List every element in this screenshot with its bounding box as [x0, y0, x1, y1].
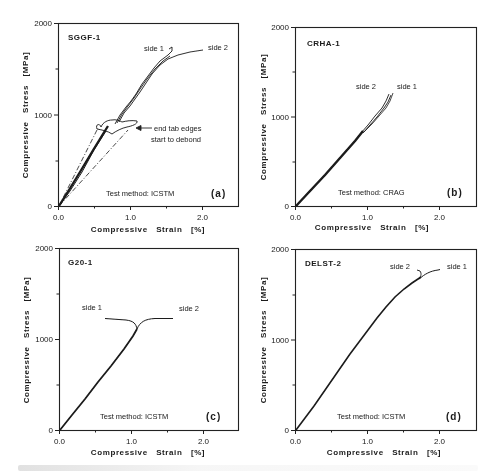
x-tick-1: 1.0 [126, 437, 138, 446]
stress-strain-curves [296, 270, 440, 431]
x-tick-0: 0.0 [53, 213, 65, 222]
y-tick-0: 0 [48, 202, 53, 211]
panel-c: 2000 1000 0 0.0 1.0 2.0 Compressive Stra… [22, 244, 239, 457]
y-axis-title: Compressive Stress [MPa] [22, 277, 31, 404]
plot-frame [296, 28, 477, 207]
panel-tag: (b) [447, 187, 463, 198]
y-tick-1000: 1000 [271, 336, 289, 345]
y-axis-title: Compressive Stress [MPa] [21, 52, 30, 179]
x-tick-2: 2.0 [434, 437, 446, 446]
side-2-label: side 2 [179, 304, 199, 313]
x-tick-1: 1.0 [362, 213, 374, 222]
side-2-label: side 2 [356, 82, 376, 91]
test-method-label: Test method: ICSTM [106, 189, 174, 198]
annotation-line-1: end tab edges [154, 124, 202, 133]
panel-a: 2000 1000 0 0.0 1.0 2.0 Compressive Stra… [21, 19, 239, 234]
panel-tag: (c) [206, 411, 221, 422]
panel-tag: (d) [446, 411, 462, 422]
y-tick-0: 0 [285, 202, 290, 211]
x-tick-2: 2.0 [198, 437, 210, 446]
caption-remnant [18, 465, 478, 471]
y-tick-1000: 1000 [271, 113, 289, 122]
x-tick-2: 2.0 [434, 213, 446, 222]
panel-title: DELST-2 [305, 259, 341, 268]
y-tick-1000: 1000 [34, 111, 52, 120]
plot-frame [60, 249, 239, 431]
y-tick-0: 0 [49, 426, 54, 435]
test-method-label: Test method: ICSTM [337, 412, 405, 421]
panel-b: 2000 1000 0 0.0 1.0 2.0 Compressive Stra… [259, 23, 477, 232]
y-axis-title: Compressive Stress [MPa] [259, 54, 268, 181]
figure: 2000 1000 0 0.0 1.0 2.0 Compressive Stra… [0, 0, 495, 474]
y-tick-2000: 2000 [35, 244, 53, 253]
side-1-label: side 1 [447, 262, 467, 271]
y-tick-2000: 2000 [271, 23, 289, 32]
y-tick-1000: 1000 [35, 335, 53, 344]
side-1-label: side 1 [397, 82, 417, 91]
y-tick-2000: 2000 [271, 245, 289, 254]
x-tick-1: 1.0 [125, 213, 137, 222]
ticks [291, 28, 440, 211]
x-tick-0: 0.0 [54, 437, 66, 446]
x-axis-title: Compressive Strain [%] [91, 448, 205, 457]
side-2-label: side 2 [390, 262, 410, 271]
side-2-label: side 2 [208, 43, 228, 52]
x-tick-0: 0.0 [290, 213, 302, 222]
y-tick-2000: 2000 [34, 19, 52, 28]
annotation-line-2: start to debond [151, 135, 201, 144]
x-axis-title: Compressive Strain [%] [315, 223, 429, 232]
y-ticks [54, 24, 203, 211]
x-tick-1: 1.0 [362, 437, 374, 446]
panel-tag: (a) [211, 188, 226, 199]
panel-title: G20-1 [68, 258, 93, 267]
x-tick-2: 2.0 [197, 213, 209, 222]
y-tick-0: 0 [285, 426, 290, 435]
x-axis-title: Compressive Strain [%] [327, 448, 441, 457]
x-tick-0: 0.0 [290, 437, 302, 446]
side-1-label: side 1 [144, 44, 164, 53]
test-method-label: Test method: CRAG [338, 188, 405, 197]
panel-d: 2000 1000 0 0.0 1.0 2.0 Compressive Stra… [259, 245, 477, 457]
test-method-label: Test method: ICSTM [100, 412, 168, 421]
panel-title: SGGF-1 [68, 33, 101, 42]
x-axis-title: Compressive Strain [%] [91, 225, 205, 234]
panel-title: CRHA-1 [307, 39, 340, 48]
arrow-icon [136, 126, 152, 131]
side-1-label: side 1 [82, 303, 102, 312]
y-axis-title: Compressive Stress [MPa] [259, 277, 268, 404]
plot-frame [296, 250, 477, 431]
